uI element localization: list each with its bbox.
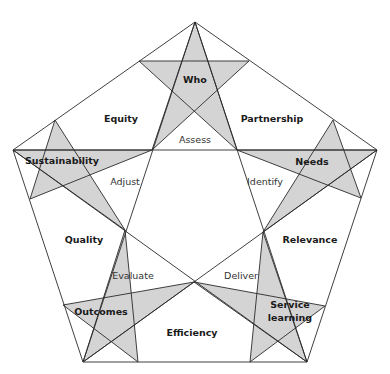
label-evaluate: Evaluate xyxy=(112,270,154,281)
vertex-stars xyxy=(13,22,377,362)
star-service-learning xyxy=(194,232,325,362)
label-sustainability: Sustainability xyxy=(25,155,100,166)
label-quality: Quality xyxy=(65,234,104,245)
label-efficiency: Efficiency xyxy=(166,327,218,338)
label-adjust: Adjust xyxy=(110,176,140,187)
pentagon-framework-diagram: Who Needs Service learning Outcomes Sust… xyxy=(0,0,390,374)
label-deliver: Deliver xyxy=(224,270,258,281)
star-who xyxy=(139,22,249,150)
label-who: Who xyxy=(183,74,207,85)
label-equity: Equity xyxy=(104,113,139,124)
label-learning: learning xyxy=(268,312,312,323)
label-service: Service xyxy=(270,299,310,310)
label-relevance: Relevance xyxy=(283,234,338,245)
label-assess: Assess xyxy=(179,134,211,145)
label-partnership: Partnership xyxy=(241,113,304,124)
label-identify: Identify xyxy=(247,176,283,187)
label-needs: Needs xyxy=(295,156,329,167)
label-outcomes: Outcomes xyxy=(74,306,128,317)
